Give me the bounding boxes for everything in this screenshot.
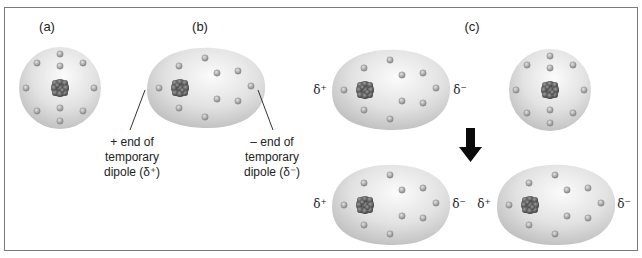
delta-minus-top-left: δ⁻ bbox=[453, 83, 467, 97]
caption-positive-line-3: dipole (δ⁺) bbox=[104, 165, 160, 179]
atom-a-neutral bbox=[19, 47, 101, 129]
delta-minus-bottom-left: δ⁻ bbox=[452, 197, 466, 211]
caption-negative-line-2: temporary bbox=[245, 150, 299, 164]
down-arrow-icon bbox=[459, 128, 482, 162]
panel-c-label: (c) bbox=[464, 19, 479, 34]
delta-plus-bottom-right: δ⁺ bbox=[477, 197, 491, 211]
leader-line-negative bbox=[258, 90, 273, 130]
panel-a-label: (a) bbox=[39, 19, 55, 34]
atom-c-top-polarized bbox=[332, 50, 450, 130]
caption-negative-line-3: dipole (δ⁻) bbox=[244, 165, 300, 179]
dispersion-force-diagram: (a) (b) + end of temporary dipole (δ⁺) –… bbox=[0, 0, 642, 258]
caption-negative-end: – end of temporary dipole (δ⁻) bbox=[244, 135, 300, 179]
delta-plus-top-left: δ⁺ bbox=[313, 83, 327, 97]
atom-c-bottom-right-induced bbox=[497, 165, 615, 245]
caption-negative-line-1: – end of bbox=[250, 135, 294, 149]
atom-c-bottom-left-polarized bbox=[332, 165, 450, 245]
atom-c-top-neutral bbox=[509, 49, 591, 131]
caption-positive-end: + end of temporary dipole (δ⁺) bbox=[104, 135, 160, 179]
delta-plus-bottom-left: δ⁺ bbox=[313, 197, 327, 211]
caption-positive-line-1: + end of bbox=[110, 135, 154, 149]
panel-b-label: (b) bbox=[192, 19, 208, 34]
delta-minus-bottom-right: δ⁻ bbox=[617, 197, 631, 211]
leader-line-positive bbox=[130, 90, 145, 130]
caption-positive-line-2: temporary bbox=[105, 150, 159, 164]
atom-b-polarized bbox=[147, 48, 265, 128]
